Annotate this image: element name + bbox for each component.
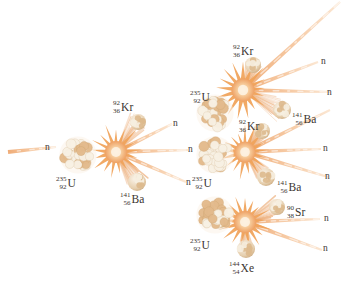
krypton-label: 9236Kr — [239, 119, 260, 134]
nucleon — [208, 214, 217, 223]
barium-label: 14156Ba — [292, 112, 317, 127]
nucleon — [77, 147, 86, 156]
trail-highlight — [271, 150, 278, 152]
nucleon — [220, 218, 228, 226]
neutron-label-gen-2-bottom-1: n — [324, 214, 329, 224]
neutron-label-gen-2-top-2: n — [327, 88, 332, 98]
trail-highlight — [287, 90, 290, 92]
barium-label-atomic-number: 56 — [292, 120, 303, 128]
krypton-fragment — [130, 114, 146, 130]
uranium-235-label-symbol: U — [68, 178, 77, 190]
trail-body — [241, 0, 341, 91]
krypton-label-symbol: Kr — [121, 102, 134, 114]
nucleon — [199, 141, 209, 151]
fragment-nucleon — [241, 242, 247, 248]
trail-highlight — [142, 150, 150, 152]
krypton-label: 9236Kr — [113, 100, 134, 115]
nucleon — [65, 159, 74, 168]
neutron-label-gen-2-middle-1: n — [323, 144, 328, 154]
krypton-label-numbers: 9236 — [233, 44, 240, 59]
strontium-label-symbol: Sr — [295, 207, 306, 219]
krypton-label-symbol: Kr — [247, 121, 260, 133]
krypton-label-numbers: 9236 — [239, 119, 246, 134]
burst-center — [238, 85, 248, 95]
trail-highlight — [333, 1, 340, 8]
trail-highlight — [310, 22, 317, 29]
nucleon — [208, 118, 216, 126]
diagram-canvas — [0, 0, 342, 283]
trail-highlight — [259, 90, 264, 92]
trail-highlight — [322, 12, 329, 18]
krypton-label-atomic-number: 36 — [233, 52, 240, 60]
barium-fragment — [273, 101, 291, 119]
trail-highlight — [287, 149, 293, 151]
trail-highlight — [169, 150, 174, 152]
neutron-label-gen-1-3: n — [186, 178, 191, 188]
fragment-nucleon — [261, 130, 266, 135]
fragment-nucleon — [266, 174, 272, 180]
xenon-label-symbol: Xe — [241, 263, 255, 275]
uranium-235-label-atomic-number: 92 — [190, 246, 201, 254]
nucleon — [219, 144, 228, 153]
strontium-fragment — [269, 199, 285, 215]
krypton-label-atomic-number: 36 — [113, 108, 120, 116]
uranium-235-label-symbol: U — [202, 92, 211, 104]
krypton-label-atomic-number: 36 — [239, 127, 246, 135]
barium-fragment — [257, 168, 275, 186]
barium-label: 14156Ba — [120, 192, 145, 207]
neutron-trail — [241, 0, 341, 91]
fragment-nucleon — [273, 205, 278, 210]
nucleon — [85, 152, 93, 160]
neutron-label-gen-2-bottom-2: n — [323, 244, 328, 254]
xenon-label: 14454Xe — [229, 261, 254, 276]
nucleon — [202, 155, 210, 163]
barium-label-atomic-number: 56 — [120, 200, 131, 208]
fragment-nucleon — [249, 60, 256, 67]
neutron-label-gen-1-1: n — [173, 119, 178, 129]
trail-highlight — [303, 149, 308, 151]
uranium-235-label-atomic-number: 92 — [192, 184, 203, 192]
barium-label-symbol: Ba — [132, 194, 145, 206]
trail-highlight — [311, 148, 318, 150]
fragment-nucleon — [137, 174, 142, 179]
trail-highlight — [297, 91, 303, 93]
fragment-nucleon — [136, 182, 142, 188]
barium-label-symbol: Ba — [289, 182, 302, 194]
barium-label: 14156Ba — [277, 180, 302, 195]
fragment-nucleon — [139, 118, 145, 124]
trail-highlight — [176, 149, 186, 151]
uranium-nucleus — [59, 136, 96, 173]
uranium-235-label: 23592U — [192, 176, 212, 191]
fission-bursts — [91, 61, 273, 245]
barium-fragment — [128, 173, 146, 191]
fragment-nucleon — [282, 111, 289, 118]
xenon-fragment — [237, 240, 255, 258]
nucleon — [82, 161, 90, 169]
nucleon — [210, 141, 219, 150]
uranium-235-label: 23592U — [56, 176, 76, 191]
barium-label-atomic-number: 56 — [277, 188, 288, 196]
fragment-nucleon — [247, 243, 252, 248]
neutron-label-gen-2-top-1: n — [321, 57, 326, 67]
nucleon — [214, 152, 224, 162]
krypton-label: 9236Kr — [233, 44, 254, 59]
strontium-label: 9038Sr — [287, 205, 306, 220]
barium-label-numbers: 14156 — [277, 180, 288, 195]
burst-center — [240, 147, 250, 157]
fragment-nucleon — [277, 107, 282, 112]
uranium-235-label-symbol: U — [204, 178, 213, 190]
fragment-nucleon — [246, 248, 252, 254]
barium-label-numbers: 14156 — [120, 192, 131, 207]
nucleon — [66, 139, 76, 149]
fission-chain-diagram: n23592U9236Kr14156Bannn23592U9236Kr14156… — [0, 0, 342, 283]
fragment-nucleon — [283, 104, 289, 110]
trail-highlight — [270, 220, 276, 222]
fragment-nucleon — [260, 171, 266, 177]
nucleon — [224, 208, 234, 218]
barium-label-numbers: 14156 — [292, 112, 303, 127]
trail-highlight — [273, 55, 281, 62]
trail-highlight — [313, 218, 320, 220]
trail-highlight — [272, 90, 279, 92]
neutron-label-gen-1-2: n — [188, 145, 193, 155]
neutron-label-gen-2-middle-2: n — [325, 172, 330, 182]
